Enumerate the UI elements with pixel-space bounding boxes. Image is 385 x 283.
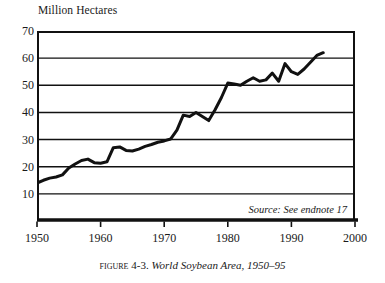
y-tick-label: 40	[0, 106, 34, 118]
gridlines	[37, 58, 355, 194]
x-tick-label: 1970	[152, 232, 176, 245]
x-tick-label: 1950	[25, 232, 49, 245]
x-tick-label: 1960	[89, 232, 113, 245]
x-axis-tick-labels: 195019601970198019902000	[0, 232, 385, 250]
x-tick-label: 1980	[216, 232, 240, 245]
figure-world-soybean-area: Million Hectares 70 60 50 40 30 20 10 So…	[0, 0, 385, 283]
y-tick-label: 20	[0, 161, 34, 173]
y-axis-label: Million Hectares	[38, 4, 117, 16]
x-axis	[30, 218, 365, 232]
x-tick-label: 1990	[279, 232, 303, 245]
x-tick-label: 2000	[343, 232, 367, 245]
y-tick-label: 70	[0, 25, 34, 37]
caption-figure-word: Figure	[100, 259, 129, 271]
y-tick-label: 10	[0, 188, 34, 200]
caption-title: World Soybean Area, 1950–95	[151, 259, 285, 271]
data-series-line	[37, 53, 323, 183]
y-tick-label: 30	[0, 134, 34, 146]
y-tick-label: 50	[0, 79, 34, 91]
y-tick-label: 60	[0, 52, 34, 64]
plot-area	[37, 31, 355, 221]
caption-figure-number: 4-3.	[131, 259, 148, 271]
x-axis-tick-marks	[37, 222, 355, 227]
figure-caption: Figure 4-3. World Soybean Area, 1950–95	[0, 259, 385, 271]
